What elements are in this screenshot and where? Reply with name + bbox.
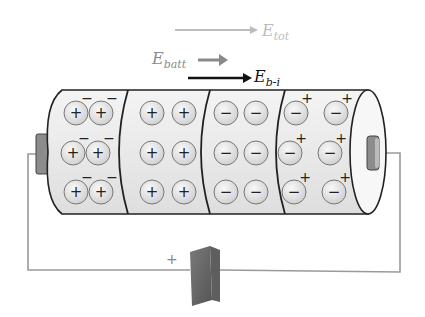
section-3-particle-sign: − — [250, 183, 263, 201]
section-1-particle-sign: + — [70, 104, 83, 122]
plus-sign-label: + — [166, 251, 178, 267]
section-1-particle-sign: + — [95, 104, 108, 122]
section-4-particle-sign: − — [324, 144, 337, 162]
section-4-particle-sign: − — [328, 183, 341, 201]
section-2-particle-sign: + — [178, 183, 191, 201]
battery-diagram: Etot Ebatt Eb-i +−+−+−+−+−+−++++++−−−−−−… — [0, 0, 425, 317]
section-1-extra-charge: − — [81, 169, 93, 185]
section-4-particle-sign: − — [288, 183, 301, 201]
section-4-extra-charge: + — [295, 130, 307, 146]
section-4-particle-sign: − — [284, 144, 297, 162]
section-2-particle-sign: + — [178, 104, 191, 122]
section-4-extra-charge: + — [335, 130, 347, 146]
section-2-particle-sign: + — [146, 104, 159, 122]
section-2-particle-sign: + — [178, 144, 191, 162]
section-4-extra-charge: + — [299, 169, 311, 185]
section-4-particle-sign: − — [330, 104, 343, 122]
section-1-extra-charge: − — [106, 90, 118, 106]
section-3-particle-sign: − — [220, 144, 233, 162]
section-1-particle-sign: + — [95, 183, 108, 201]
section-1-extra-charge: − — [81, 90, 93, 106]
e-tot-arrow — [175, 26, 258, 34]
e-batt-label: Ebatt — [151, 49, 187, 71]
section-4-extra-charge: + — [339, 169, 351, 185]
section-3-particle-sign: − — [250, 144, 263, 162]
negative-terminal — [36, 134, 48, 174]
section-1-particle-sign: + — [92, 144, 105, 162]
e-bi-arrow — [188, 73, 252, 83]
e-batt-arrow — [198, 54, 228, 66]
section-1-extra-charge: − — [106, 169, 118, 185]
section-3-particle-sign: − — [220, 104, 233, 122]
section-1-extra-charge: − — [78, 130, 90, 146]
e-bi-label: Eb-i — [253, 67, 280, 89]
section-2-particle-sign: + — [146, 183, 159, 201]
section-2-particle-sign: + — [146, 144, 159, 162]
section-1-particle-sign: + — [67, 144, 80, 162]
switch-blade — [190, 246, 220, 306]
section-1-particle-sign: + — [70, 183, 83, 201]
section-1-extra-charge: − — [103, 130, 115, 146]
e-tot-label: Etot — [261, 21, 290, 43]
section-4-extra-charge: + — [301, 90, 313, 106]
section-4-particle-sign: − — [290, 104, 303, 122]
section-3-particle-sign: − — [250, 104, 263, 122]
section-3-particle-sign: − — [220, 183, 233, 201]
section-4-extra-charge: + — [341, 90, 353, 106]
positive-terminal — [367, 136, 379, 170]
